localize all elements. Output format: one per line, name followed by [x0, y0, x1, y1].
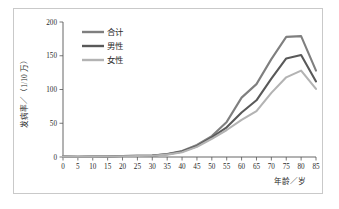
y-axis-ticks — [60, 22, 64, 157]
x-tick-label: 40 — [178, 163, 186, 171]
x-tick-label: 0 — [61, 163, 65, 171]
x-tick-label: 80 — [298, 163, 306, 171]
x-tick-label: 55 — [223, 163, 231, 171]
y-tick-label: 50 — [50, 120, 58, 128]
x-tick-label: 15 — [104, 163, 112, 171]
x-axis-title: 年龄／岁 — [274, 176, 306, 186]
x-tick-label: 70 — [268, 163, 276, 171]
y-axis-title: 发病率／（1/10 万） — [19, 56, 29, 127]
x-tick-label: 20 — [119, 163, 127, 171]
series-line-2 — [63, 71, 316, 157]
x-tick-label: 50 — [208, 163, 216, 171]
y-tick-label: 150 — [46, 52, 57, 60]
x-tick-label: 45 — [193, 163, 201, 171]
y-tick-label: 0 — [53, 154, 57, 162]
legend-item-male: 男性 — [82, 41, 123, 51]
chart-axes — [60, 22, 317, 161]
x-tick-label: 65 — [253, 163, 261, 171]
x-tick-label: 25 — [134, 163, 142, 171]
chart-legend: 合计 男性 女性 — [82, 27, 124, 65]
legend-item-female: 女性 — [82, 55, 123, 65]
y-axis-tick-labels: 050100150200 — [46, 19, 57, 162]
legend-label-male: 男性 — [107, 41, 123, 51]
x-tick-label: 35 — [164, 163, 172, 171]
incidence-rate-line-chart: 050100150200 051015202530354045505560657… — [0, 0, 339, 209]
legend-label-total: 合计 — [107, 27, 124, 37]
x-axis-tick-labels: 0510152025303540455055606570758085 — [61, 163, 320, 171]
x-tick-label: 10 — [89, 163, 97, 171]
x-tick-label: 85 — [312, 163, 320, 171]
legend-item-total: 合计 — [82, 27, 124, 37]
legend-label-female: 女性 — [107, 55, 123, 65]
y-tick-label: 200 — [46, 19, 57, 27]
x-tick-label: 60 — [238, 163, 246, 171]
series-line-1 — [63, 55, 316, 157]
data-series-group — [63, 36, 316, 157]
x-tick-label: 75 — [283, 163, 291, 171]
y-tick-label: 100 — [46, 86, 57, 94]
x-tick-label: 5 — [76, 163, 80, 171]
series-line-0 — [63, 36, 316, 157]
axis-lines — [63, 22, 316, 157]
x-tick-label: 30 — [149, 163, 157, 171]
